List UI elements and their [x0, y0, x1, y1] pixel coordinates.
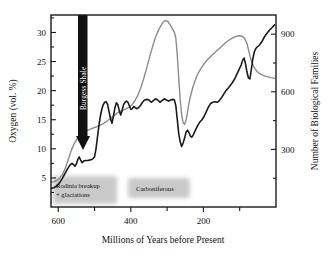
y-tick-label: 15: [37, 115, 47, 125]
x-tick-label: 400: [124, 216, 138, 226]
y2-tick-label: 600: [281, 87, 295, 97]
y-axis-right-ticks: 300600900: [271, 29, 295, 178]
rodinia-shade-box: [53, 176, 117, 204]
annotation-carboniferous: Carboniferous: [128, 178, 190, 198]
oxygen-biodiversity-chart: Rodinia breakup + glaciations Carbonifer…: [0, 0, 331, 255]
x-tick-label: 200: [197, 216, 211, 226]
y2-tick-label: 300: [281, 145, 295, 155]
x-tick-label: 600: [52, 216, 66, 226]
rodinia-label-line2: + glaciations: [56, 191, 90, 198]
y-tick-label: 10: [37, 144, 47, 154]
burgess-shale-label: Burgess Shale: [80, 67, 88, 110]
x-axis-ticks: 600400200: [52, 207, 240, 226]
y-axis-left-title: Oxygen (vol. %): [8, 79, 19, 143]
y-tick-label: 25: [37, 57, 47, 67]
y-tick-label: 20: [37, 86, 47, 96]
annotation-rodinia: Rodinia breakup + glaciations: [53, 176, 117, 204]
rodinia-label-line1: Rodinia breakup: [56, 182, 100, 189]
burgess-shale-arrowhead: [76, 136, 90, 150]
carboniferous-label: Carboniferous: [136, 185, 174, 192]
y-tick-label: 30: [37, 28, 47, 38]
y2-tick-label: 900: [281, 29, 295, 39]
x-axis-title: Millions of Years before Present: [102, 235, 225, 245]
y-axis-left-ticks: 51015202530: [37, 18, 56, 193]
y-tick-label: 5: [42, 173, 47, 183]
y-axis-right-title: Number of Biological Families: [310, 51, 320, 170]
figure-container: Rodinia breakup + glaciations Carbonifer…: [0, 0, 331, 255]
